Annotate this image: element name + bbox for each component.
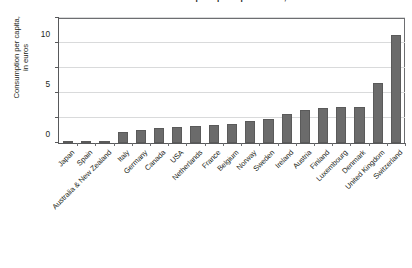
- bar: [391, 35, 401, 144]
- x-axis-label: Ireland: [273, 148, 295, 170]
- x-tick-mark: [314, 143, 315, 146]
- y-tick-label: 10: [41, 29, 50, 39]
- y-tick-mark: 0: [55, 142, 59, 143]
- gridline: [59, 67, 405, 68]
- x-tick-mark: [150, 143, 151, 146]
- y-tick-label: 0: [45, 129, 50, 139]
- bar-chart-figure: Annual fair-trade consumption per capita…: [0, 0, 412, 268]
- bar: [336, 107, 346, 143]
- bar: [245, 121, 255, 143]
- bar: [63, 141, 73, 143]
- x-tick-mark: [350, 143, 351, 146]
- gridline: [59, 42, 405, 43]
- x-tick-mark: [296, 143, 297, 146]
- bar: [118, 132, 128, 144]
- bar: [300, 110, 310, 144]
- x-axis-label: Japan: [56, 148, 76, 168]
- bar: [81, 141, 91, 143]
- bar: [373, 83, 383, 144]
- y-tick-mark: 5: [55, 117, 59, 118]
- y-tick-label: 5: [45, 79, 50, 89]
- y-tick-mark: 20: [55, 42, 59, 43]
- y-tick-mark: 25: [55, 17, 59, 18]
- bar: [282, 114, 292, 143]
- y-tick-mark: 15: [55, 67, 59, 68]
- bar: [136, 130, 146, 144]
- chart-title: Annual fair-trade consumption per capita…: [44, 0, 374, 2]
- x-tick-mark: [114, 143, 115, 146]
- x-tick-mark: [132, 143, 133, 146]
- x-tick-mark: [387, 143, 388, 146]
- gridline: [59, 17, 405, 18]
- x-tick-mark: [259, 143, 260, 146]
- bar: [263, 119, 273, 144]
- y-tick-mark: 10: [55, 92, 59, 93]
- x-tick-mark: [332, 143, 333, 146]
- bar: [318, 108, 328, 144]
- y-axis-title: Consumption per capita,in euros: [12, 0, 31, 119]
- bar: [227, 124, 237, 144]
- bar: [154, 128, 164, 143]
- gridline: [59, 92, 405, 93]
- bar: [209, 125, 219, 143]
- bar: [354, 107, 364, 144]
- x-tick-mark: [95, 143, 96, 146]
- bar: [172, 127, 182, 143]
- x-tick-mark: [77, 143, 78, 146]
- bar: [99, 141, 109, 143]
- plot-area: 0510152025: [58, 18, 405, 144]
- x-tick-mark: [241, 143, 242, 146]
- x-tick-mark: [186, 143, 187, 146]
- x-tick-mark: [405, 143, 406, 146]
- x-tick-mark: [168, 143, 169, 146]
- gridline: [59, 117, 405, 118]
- x-tick-mark: [205, 143, 206, 146]
- x-tick-mark: [278, 143, 279, 146]
- x-tick-mark: [223, 143, 224, 146]
- x-tick-mark: [369, 143, 370, 146]
- bar: [190, 126, 200, 143]
